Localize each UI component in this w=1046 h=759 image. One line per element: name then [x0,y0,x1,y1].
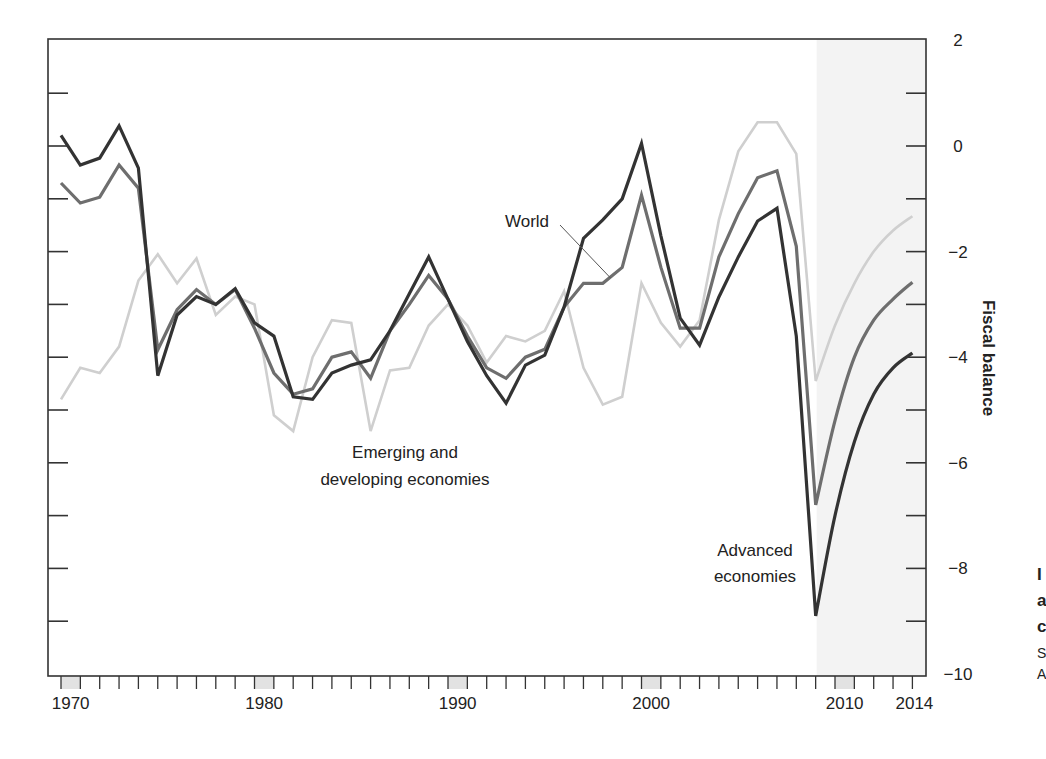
x-tick-label: 1990 [439,694,477,713]
caption-fragment: A [1037,666,1046,682]
x-tick-label: 2000 [632,694,670,713]
y-tick-label: −2 [948,243,967,262]
y-tick-label: 2 [953,31,962,50]
y-tick-label: −8 [948,559,967,578]
series-line-emerging-and-developing-economies [61,122,912,431]
x-tick-label: 1980 [245,694,283,713]
y-tick-label: −4 [948,348,967,367]
caption-fragment: I [1037,565,1042,585]
annotation-emerging-line2: developing economies [320,470,489,489]
caption-fragment: a [1037,591,1046,611]
annotation-advanced-line1: Advanced [717,541,793,560]
x-tick-label: 2014 [895,694,933,713]
y-axis-title: Fiscal balance [979,300,998,416]
annotation-emerging-line1: Emerging and [352,443,458,462]
x-tick-label: 2010 [826,694,864,713]
annotation-world: World [505,212,549,231]
caption-fragment: c [1037,617,1046,637]
y-tick-label: −10 [944,665,973,684]
y-tick-label: −6 [948,454,967,473]
x-label-year-markers [61,677,854,689]
annotation-advanced-line2: economies [714,567,796,586]
y-tick-label: 0 [953,137,962,156]
world-annotation-pointer [560,225,611,278]
x-tick-label: 1970 [52,694,90,713]
series-line-world [61,165,912,505]
x-axis-ticks: 197019801990200020102014 [52,676,934,713]
caption-fragment: S [1037,645,1046,661]
